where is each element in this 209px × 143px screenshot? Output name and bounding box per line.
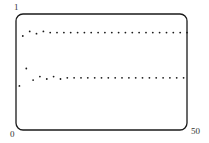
data-point (73, 77, 75, 79)
y-max-label: 1 (14, 2, 19, 12)
data-point (53, 76, 55, 78)
data-point (145, 32, 147, 34)
data-point (46, 78, 48, 80)
x-max-label: 50 (191, 126, 201, 136)
data-point (84, 32, 86, 34)
data-point (49, 32, 51, 34)
plot-frame (16, 14, 187, 130)
data-point (77, 32, 79, 34)
data-point (152, 32, 154, 34)
data-point (19, 85, 21, 87)
data-point (155, 77, 157, 79)
data-point (101, 77, 103, 79)
data-point (186, 32, 188, 34)
data-point (179, 32, 181, 34)
data-point (142, 77, 144, 79)
data-point (39, 76, 41, 78)
data-point (128, 77, 130, 79)
data-point (22, 35, 24, 37)
scatter-chart: 1 0 50 (0, 0, 209, 143)
data-point (80, 77, 82, 79)
data-point (36, 33, 38, 35)
data-point (121, 77, 123, 79)
data-point (94, 77, 96, 79)
data-point (138, 32, 140, 34)
data-point (111, 32, 113, 34)
data-point (63, 32, 65, 34)
data-points (19, 31, 188, 87)
data-point (176, 77, 178, 79)
data-point (104, 32, 106, 34)
data-point (56, 32, 58, 34)
data-point (25, 68, 27, 70)
data-point (114, 77, 116, 79)
data-point (66, 77, 68, 79)
data-point (70, 32, 72, 34)
data-point (118, 32, 120, 34)
data-point (183, 77, 185, 79)
data-point (131, 32, 133, 34)
data-point (172, 32, 174, 34)
data-point (162, 77, 164, 79)
data-point (97, 32, 99, 34)
data-point (32, 79, 34, 81)
data-point (29, 31, 31, 33)
data-point (135, 77, 137, 79)
data-point (125, 32, 127, 34)
data-point (60, 78, 62, 80)
data-point (149, 77, 151, 79)
data-point (87, 77, 89, 79)
data-point (159, 32, 161, 34)
data-point (169, 77, 171, 79)
data-point (107, 77, 109, 79)
x-origin-label: 0 (10, 129, 15, 139)
data-point (166, 32, 168, 34)
data-point (90, 32, 92, 34)
data-point (43, 31, 45, 33)
